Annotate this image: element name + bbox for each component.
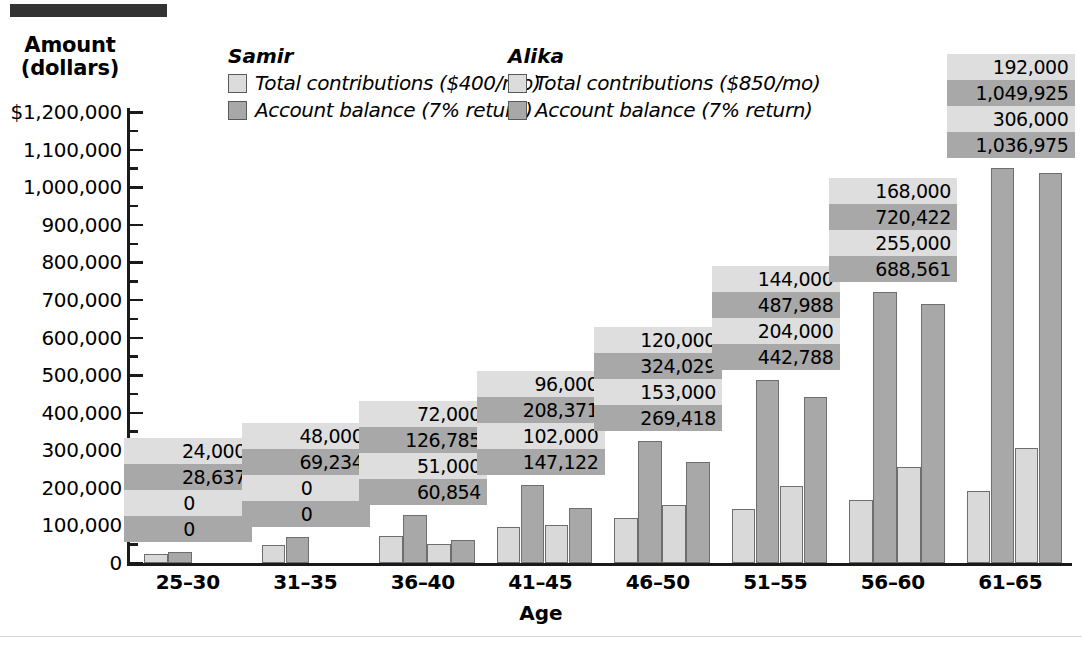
legend-swatch-dark-icon xyxy=(228,101,247,120)
bar-value-label: 153,000 xyxy=(594,379,722,405)
chart-canvas: Amount(dollars) Age $1,200,0001,100,0001… xyxy=(0,0,1082,648)
bar[interactable] xyxy=(427,544,451,563)
x-axis-category-label: 41–45 xyxy=(482,570,600,594)
bar[interactable] xyxy=(732,509,756,563)
y-axis-tick-label: 1,100,000 xyxy=(4,138,122,162)
y-axis-tick-label: 800,000 xyxy=(4,250,122,274)
legend-item-samir-balance[interactable]: Account balance (7% return) xyxy=(228,98,540,122)
bar-value-label: 204,000 xyxy=(712,318,840,344)
y-axis-tick xyxy=(129,186,143,189)
y-axis-tick xyxy=(129,149,143,152)
x-axis-category-label: 25–30 xyxy=(129,570,247,594)
bar[interactable] xyxy=(403,515,427,563)
bar[interactable] xyxy=(804,397,828,563)
legend-group-title: Alika xyxy=(508,44,820,68)
bar[interactable] xyxy=(897,467,921,563)
y-axis-minor-tick xyxy=(129,318,138,321)
bar-value-label: 487,988 xyxy=(712,292,840,318)
bar[interactable] xyxy=(497,527,521,563)
bar-value-label: 0 xyxy=(242,475,370,501)
bar-value-label: 1,036,975 xyxy=(947,132,1075,158)
bar-value-label: 269,418 xyxy=(594,405,722,431)
legend-item-alika-balance[interactable]: Account balance (7% return) xyxy=(508,98,820,122)
y-axis-minor-tick xyxy=(129,355,138,358)
x-axis-category-label: 61–65 xyxy=(952,570,1070,594)
bar-value-label: 147,122 xyxy=(477,449,605,475)
y-axis-tick-labels: $1,200,0001,100,0001,000,000900,000800,0… xyxy=(0,0,122,648)
bar-value-label: 168,000 xyxy=(829,178,957,204)
y-axis-tick xyxy=(129,299,143,302)
y-axis-tick-label: 0 xyxy=(4,551,122,575)
legend-alika: Alika Total contributions ($850/mo) Acco… xyxy=(508,44,820,122)
bar[interactable] xyxy=(756,380,780,563)
legend-item-samir-contributions[interactable]: Total contributions ($400/mo) xyxy=(228,71,540,95)
bar[interactable] xyxy=(451,540,475,563)
bar-value-label: 96,000 xyxy=(477,371,605,397)
bar[interactable] xyxy=(545,525,569,563)
y-axis-tick-label: 600,000 xyxy=(4,326,122,350)
y-axis-minor-tick xyxy=(129,430,138,433)
bar-value-label: 120,000 xyxy=(594,327,722,353)
bar-value-label: 0 xyxy=(124,516,252,542)
y-axis-tick-label: 700,000 xyxy=(4,288,122,312)
bar[interactable] xyxy=(614,518,638,563)
legend-swatch-light-icon xyxy=(228,74,247,93)
bar[interactable] xyxy=(144,554,168,563)
y-axis-minor-tick xyxy=(129,130,138,133)
bar[interactable] xyxy=(379,536,403,563)
y-axis-minor-tick xyxy=(129,280,138,283)
bar-value-label: 720,422 xyxy=(829,204,957,230)
value-label-stack: 144,000487,988204,000442,788 xyxy=(712,266,840,370)
legend-swatch-dark-icon xyxy=(508,101,527,120)
value-label-stack: 168,000720,422255,000688,561 xyxy=(829,178,957,282)
x-axis-category-label: 51–55 xyxy=(717,570,835,594)
bar-value-label: 192,000 xyxy=(947,54,1075,80)
x-axis-title: Age xyxy=(0,601,1082,625)
y-axis-tick xyxy=(129,261,143,264)
y-axis-tick-label: 1,000,000 xyxy=(4,175,122,199)
bar-value-label: 306,000 xyxy=(947,106,1075,132)
bar-value-label: 69,234 xyxy=(242,449,370,475)
value-label-stack: 96,000208,371102,000147,122 xyxy=(477,371,605,475)
bar-value-label: 208,371 xyxy=(477,397,605,423)
y-axis-tick-label: $1,200,000 xyxy=(4,100,122,124)
y-axis-tick-label: 900,000 xyxy=(4,213,122,237)
legend-swatch-light-icon xyxy=(508,74,527,93)
y-axis-tick-label: 300,000 xyxy=(4,438,122,462)
bar[interactable] xyxy=(967,491,991,563)
y-axis-tick xyxy=(129,412,143,415)
value-label-stack: 48,00069,23400 xyxy=(242,423,370,527)
bar-value-label: 72,000 xyxy=(359,401,487,427)
bar[interactable] xyxy=(262,545,286,563)
bar[interactable] xyxy=(849,500,873,563)
y-axis-tick-label: 100,000 xyxy=(4,513,122,537)
bar-value-label: 51,000 xyxy=(359,453,487,479)
bar[interactable] xyxy=(521,485,545,563)
bar[interactable] xyxy=(873,292,897,563)
bar[interactable] xyxy=(921,304,945,563)
bar-value-label: 28,637 xyxy=(124,464,252,490)
bar[interactable] xyxy=(569,508,593,563)
bar-value-label: 442,788 xyxy=(712,344,840,370)
bar[interactable] xyxy=(638,441,662,563)
legend-samir: Samir Total contributions ($400/mo) Acco… xyxy=(228,44,540,122)
x-axis-category-label: 46–50 xyxy=(599,570,717,594)
bar[interactable] xyxy=(686,462,710,563)
y-axis-minor-tick xyxy=(129,243,138,246)
bar[interactable] xyxy=(1015,448,1039,563)
y-axis-minor-tick xyxy=(129,393,138,396)
bar[interactable] xyxy=(286,537,310,563)
bar-value-label: 1,049,925 xyxy=(947,80,1075,106)
x-axis-line xyxy=(127,563,1072,566)
legend-item-alika-contributions[interactable]: Total contributions ($850/mo) xyxy=(508,71,820,95)
value-label-stack: 72,000126,78551,00060,854 xyxy=(359,401,487,505)
bar[interactable] xyxy=(991,168,1015,563)
bar[interactable] xyxy=(1039,173,1063,563)
y-axis-tick-label: 500,000 xyxy=(4,363,122,387)
bar[interactable] xyxy=(780,486,804,563)
y-axis-minor-tick xyxy=(129,205,138,208)
legend-item-label: Account balance (7% return) xyxy=(535,98,812,122)
bar-value-label: 102,000 xyxy=(477,423,605,449)
bar[interactable] xyxy=(168,552,192,563)
bar[interactable] xyxy=(662,505,686,563)
